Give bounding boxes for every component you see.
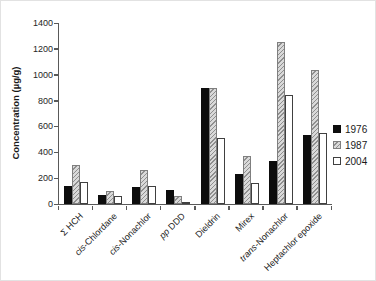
y-axis-tick-label: 0 xyxy=(19,199,53,209)
bar-1976 xyxy=(269,161,277,204)
bar-1987 xyxy=(277,42,285,204)
y-axis-tick xyxy=(54,23,58,25)
x-axis-label-italic-part: trans xyxy=(238,242,259,263)
bar-1987 xyxy=(174,196,182,204)
bar-chart: Concentration (µg/g) 0200400600800100012… xyxy=(0,0,376,281)
bar-2004 xyxy=(182,202,190,204)
bar-1987 xyxy=(140,170,148,204)
x-axis-tick xyxy=(160,206,162,210)
bar-2004 xyxy=(80,182,88,204)
legend-swatch-2004 xyxy=(333,157,341,165)
bar-2004 xyxy=(319,133,327,204)
bar-1987 xyxy=(106,191,114,204)
bar-1976 xyxy=(235,174,243,204)
x-axis-tick xyxy=(331,206,333,210)
y-axis-tick-label: 800 xyxy=(19,96,53,106)
bar-2004 xyxy=(285,95,293,204)
y-axis-tick-label: 400 xyxy=(19,147,53,157)
bar-1976 xyxy=(201,88,209,204)
y-axis-tick xyxy=(54,152,58,154)
x-axis-label-italic-part: cis xyxy=(73,242,88,257)
bar-1976 xyxy=(132,187,140,204)
x-axis-label-italic-part: cis xyxy=(107,242,122,257)
bar-1976 xyxy=(166,190,174,204)
bar-2004 xyxy=(217,138,225,204)
bar-1976 xyxy=(303,135,311,204)
x-axis-tick xyxy=(92,206,94,210)
x-axis-tick xyxy=(194,206,196,210)
bar-1976 xyxy=(64,186,72,204)
y-axis-tick xyxy=(54,48,58,50)
plot-area xyxy=(58,23,332,205)
y-axis-tick-label: 1400 xyxy=(19,18,53,28)
legend: 197619872004 xyxy=(333,121,367,169)
x-axis-tick xyxy=(126,206,128,210)
bar-2004 xyxy=(251,183,259,204)
x-axis-tick xyxy=(58,206,60,210)
bar-1987 xyxy=(311,70,319,204)
legend-label: 1987 xyxy=(345,140,367,151)
y-axis-tick-label: 1000 xyxy=(19,70,53,80)
legend-item-2004: 2004 xyxy=(333,153,367,169)
legend-label: 1976 xyxy=(345,124,367,135)
x-axis-tick xyxy=(296,206,298,210)
y-axis-tick xyxy=(54,126,58,128)
y-axis-tick xyxy=(54,178,58,180)
x-axis-label: Σ HCH xyxy=(0,211,85,281)
legend-item-1987: 1987 xyxy=(333,137,367,153)
y-axis-tick-label: 200 xyxy=(19,173,53,183)
x-axis-label-italic-part: pp xyxy=(158,227,172,241)
y-axis-title: Concentration (µg/g) xyxy=(10,66,21,159)
bar-1987 xyxy=(72,165,80,204)
y-axis-tick-label: 1200 xyxy=(19,44,53,54)
x-axis-tick xyxy=(228,206,230,210)
bar-2004 xyxy=(148,186,156,204)
legend-label: 2004 xyxy=(345,156,367,167)
bar-1976 xyxy=(98,195,106,204)
y-axis-tick-label: 600 xyxy=(19,121,53,131)
bar-1987 xyxy=(243,156,251,204)
bar-2004 xyxy=(114,196,122,204)
x-axis-tick xyxy=(262,206,264,210)
bar-1987 xyxy=(209,88,217,204)
legend-swatch-1976 xyxy=(333,125,341,133)
legend-item-1976: 1976 xyxy=(333,121,367,137)
y-axis-tick xyxy=(54,100,58,102)
y-axis-tick xyxy=(54,74,58,76)
legend-swatch-1987 xyxy=(333,141,341,149)
